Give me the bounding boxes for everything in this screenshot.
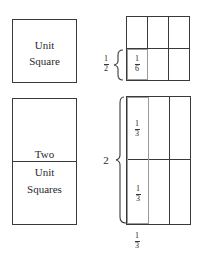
top-curly-brace-icon <box>114 50 123 80</box>
braces-layer <box>0 0 202 256</box>
bottom-curly-brace-icon <box>116 97 126 223</box>
